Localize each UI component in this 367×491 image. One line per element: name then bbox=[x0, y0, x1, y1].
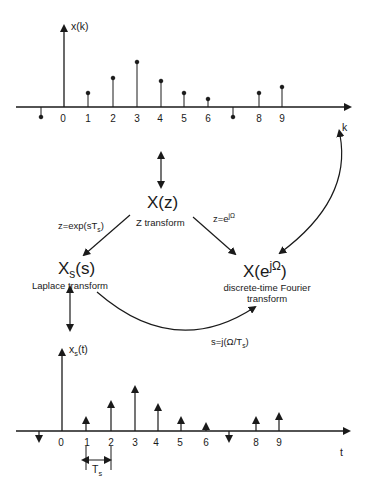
dtft-caption: discrete-time Fouriertransform bbox=[221, 282, 313, 304]
tick-4: 4 bbox=[153, 437, 159, 448]
diagram-canvas bbox=[0, 0, 367, 491]
tick-0: 0 bbox=[58, 437, 64, 448]
tick-4: 4 bbox=[157, 113, 163, 124]
tick-3: 3 bbox=[134, 113, 140, 124]
stems bbox=[39, 60, 284, 119]
tick-9: 9 bbox=[276, 437, 282, 448]
top-to-dtft-curve bbox=[280, 135, 342, 253]
top-stem-plot bbox=[16, 26, 350, 119]
bottom-impulse-plot bbox=[16, 350, 349, 470]
impulses bbox=[39, 387, 279, 441]
k-axis-label: k bbox=[342, 121, 347, 133]
tick-9: 9 bbox=[279, 113, 285, 124]
z-to-dtft-label: z=ejΩ bbox=[213, 212, 235, 224]
xk-axis-label: x(k) bbox=[71, 20, 89, 32]
tick-2: 2 bbox=[110, 113, 116, 124]
tick-3: 3 bbox=[132, 437, 138, 448]
ts-label: Ts bbox=[92, 463, 102, 478]
z-transform-symbol: X(z) bbox=[147, 193, 178, 213]
laplace-symbol: Xs(s) bbox=[58, 259, 95, 281]
tick-1: 1 bbox=[85, 113, 91, 124]
dtft-symbol: X(ejΩ) bbox=[243, 259, 287, 282]
tick-0: 0 bbox=[60, 113, 66, 124]
tick-5: 5 bbox=[177, 437, 183, 448]
tick-8: 8 bbox=[256, 113, 262, 124]
z-to-laplace-label: z=exp(sTs) bbox=[58, 220, 104, 233]
xst-axis-label: xs(t) bbox=[69, 343, 88, 358]
tick-8: 8 bbox=[253, 437, 259, 448]
tick-2: 2 bbox=[108, 437, 114, 448]
laplace-to-dtft-label: s=j(Ω/Ts) bbox=[211, 336, 249, 349]
tick-5: 5 bbox=[181, 113, 187, 124]
z-transform-caption: Z transform bbox=[136, 217, 185, 228]
tick-1: 1 bbox=[84, 437, 90, 448]
laplace-caption: Laplace transform bbox=[32, 280, 108, 291]
tick-6: 6 bbox=[203, 437, 209, 448]
tick-6: 6 bbox=[205, 113, 211, 124]
t-axis-label: t bbox=[340, 446, 343, 458]
